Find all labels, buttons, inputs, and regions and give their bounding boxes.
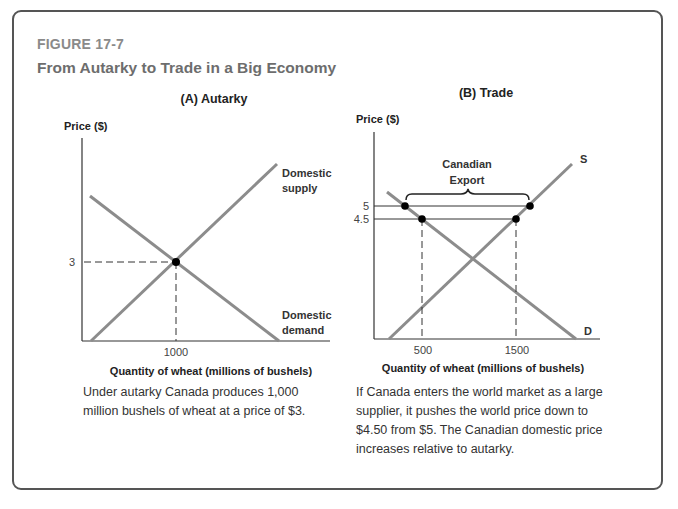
panel-b-x-tick-1500: 1500 xyxy=(505,344,529,356)
panel-b-point-demand-4-5 xyxy=(418,215,426,223)
panel-b-demand-curve xyxy=(387,192,576,339)
panel-a-x-axis-title: Quantity of wheat (millions of bushels) xyxy=(110,365,313,377)
panel-a-supply-curve xyxy=(91,164,277,341)
panel-a-y-axis-title: Price ($) xyxy=(64,120,108,132)
panel-a-demand-label-2: demand xyxy=(282,324,324,336)
panel-b: (B) Trade Price ($) Canadian Export 5 4.… xyxy=(354,86,600,374)
panel-b-point-supply-4-5 xyxy=(512,215,520,223)
panel-a-title: (A) Autarky xyxy=(181,92,248,106)
panel-b-export-label-2: Export xyxy=(450,174,485,186)
panel-b-caption: If Canada enters the world market as a l… xyxy=(356,383,618,459)
panel-b-x-axis-title: Quantity of wheat (millions of bushels) xyxy=(382,362,585,374)
panel-b-point-supply-5 xyxy=(526,202,534,210)
panel-b-supply-label: S xyxy=(580,153,587,165)
panel-a-demand-label-1: Domestic xyxy=(282,309,332,321)
panel-b-x-tick-500: 500 xyxy=(414,344,432,356)
panel-b-demand-label: D xyxy=(584,325,592,337)
panel-a-supply-label-2: supply xyxy=(282,182,318,194)
panel-a-demand-curve xyxy=(90,196,279,341)
panel-b-title: (B) Trade xyxy=(459,86,513,100)
panel-a-equilibrium-point xyxy=(172,258,180,266)
panel-a-caption: Under autarky Canada produces 1,000 mill… xyxy=(83,383,323,421)
panel-a-supply-label-1: Domestic xyxy=(282,167,332,179)
panel-b-y-axis-title: Price ($) xyxy=(356,113,400,125)
panel-b-export-brace xyxy=(406,189,529,200)
panel-b-export-label-1: Canadian xyxy=(442,158,492,170)
panel-a: (A) Autarky Price ($) 3 1000 Domestic su… xyxy=(64,92,332,377)
panel-b-y-tick-5: 5 xyxy=(363,200,369,212)
panel-b-y-tick-4-5: 4.5 xyxy=(354,213,369,225)
panel-b-point-demand-5 xyxy=(401,202,409,210)
panel-a-x-tick: 1000 xyxy=(164,346,188,358)
panel-a-y-tick: 3 xyxy=(69,256,75,268)
